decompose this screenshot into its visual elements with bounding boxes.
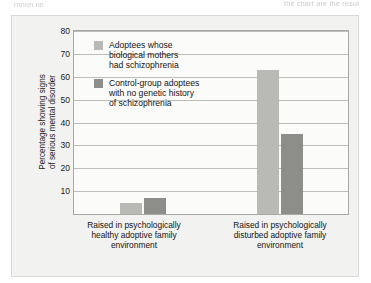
y-axis-tick-label: 50 <box>60 95 70 105</box>
legend-item: Adoptees whose biological mothers had sc… <box>94 40 264 71</box>
page-fragment-left: rnnnn nn <box>14 1 44 8</box>
legend-label: Control-group adoptees with no genetic h… <box>109 78 199 109</box>
y-axis-title: Percentage showing signs of serious ment… <box>38 37 58 207</box>
legend-swatch-icon <box>94 41 103 50</box>
y-axis-tick-label: 40 <box>60 118 70 128</box>
y-axis-tick-label: 80 <box>60 26 70 36</box>
bar <box>144 198 166 214</box>
gridline: 30 <box>74 145 348 146</box>
page-fragment-right: the chart are the resul <box>284 0 359 7</box>
gridline: 20 <box>74 168 348 169</box>
y-axis-tick-label: 70 <box>60 49 70 59</box>
figure-card: Percentage showing signs of serious ment… <box>11 15 359 277</box>
y-axis-tick-label: 60 <box>60 72 70 82</box>
legend-label: Adoptees whose biological mothers had sc… <box>109 40 179 71</box>
bar <box>281 134 303 214</box>
legend-swatch-icon <box>94 79 103 88</box>
gridline: 10 <box>74 191 348 192</box>
plot-area: 1020304050607080 Adoptees whose biologic… <box>73 30 349 215</box>
y-axis-tick-label: 30 <box>60 140 70 150</box>
x-category-label: Raised in psychologically disturbed adop… <box>200 220 360 251</box>
page-text-fragments: rnnnn nn the chart are the resul <box>0 0 371 12</box>
gridline: 80 <box>74 31 348 32</box>
y-axis-tick-label: 20 <box>60 163 70 173</box>
x-category-label: Raised in psychologically healthy adopti… <box>58 220 210 251</box>
chart-legend: Adoptees whose biological mothers had sc… <box>94 40 264 115</box>
legend-item: Control-group adoptees with no genetic h… <box>94 78 264 109</box>
gridline: 40 <box>74 123 348 124</box>
y-axis-tick-label: 10 <box>60 186 70 196</box>
bar <box>120 203 142 214</box>
